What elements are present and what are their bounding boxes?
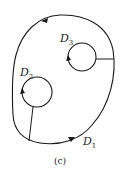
- contour-diagram: D3 D2 D1 (c): [0, 0, 122, 175]
- caption: (c): [54, 156, 66, 166]
- label-d3: D3: [59, 32, 73, 47]
- arrow-d2-icon: [20, 88, 25, 94]
- label-d2: D2: [19, 66, 33, 81]
- d2-circle: [22, 77, 52, 107]
- d3-circle: [68, 43, 96, 71]
- d2-connector: [29, 107, 33, 141]
- arrow-d3-icon: [66, 55, 71, 61]
- label-d1: D1: [82, 135, 96, 150]
